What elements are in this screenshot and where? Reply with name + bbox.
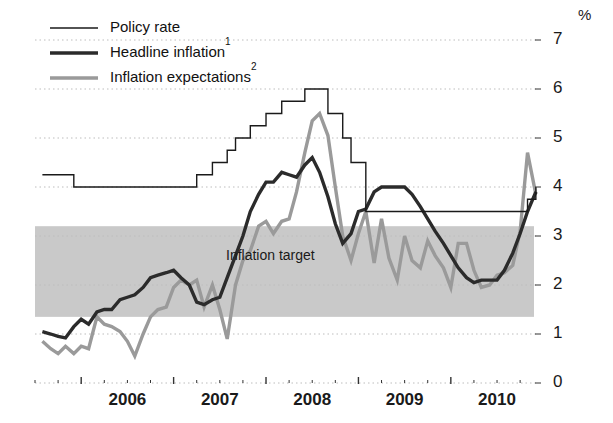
x-tick-label-2008: 2008 <box>293 390 331 409</box>
x-tick-label-2009: 2009 <box>386 390 424 409</box>
y-tick-label-1: 1 <box>553 323 562 342</box>
x-tick-label-2006: 2006 <box>108 390 146 409</box>
y-tick-label-6: 6 <box>553 78 562 97</box>
y-tick-label-7: 7 <box>553 29 562 48</box>
y-tick-label-3: 3 <box>553 225 562 244</box>
legend-label-policy-rate: Policy rate <box>110 18 180 35</box>
x-tick-label-2007: 2007 <box>201 390 239 409</box>
chart-canvas: 01234567 20062007200820092010 Policy rat… <box>0 0 613 423</box>
y-tick-label-5: 5 <box>553 127 562 146</box>
y-tick-label-4: 4 <box>553 176 562 195</box>
y-axis-unit-label: % <box>578 6 591 23</box>
x-tick-label-2010: 2010 <box>478 390 516 409</box>
y-tick-label-2: 2 <box>553 274 562 293</box>
y-tick-label-0: 0 <box>553 372 562 391</box>
inflation-chart: 01234567 20062007200820092010 Policy rat… <box>0 0 613 423</box>
inflation-target-label: Inflation target <box>226 247 315 263</box>
